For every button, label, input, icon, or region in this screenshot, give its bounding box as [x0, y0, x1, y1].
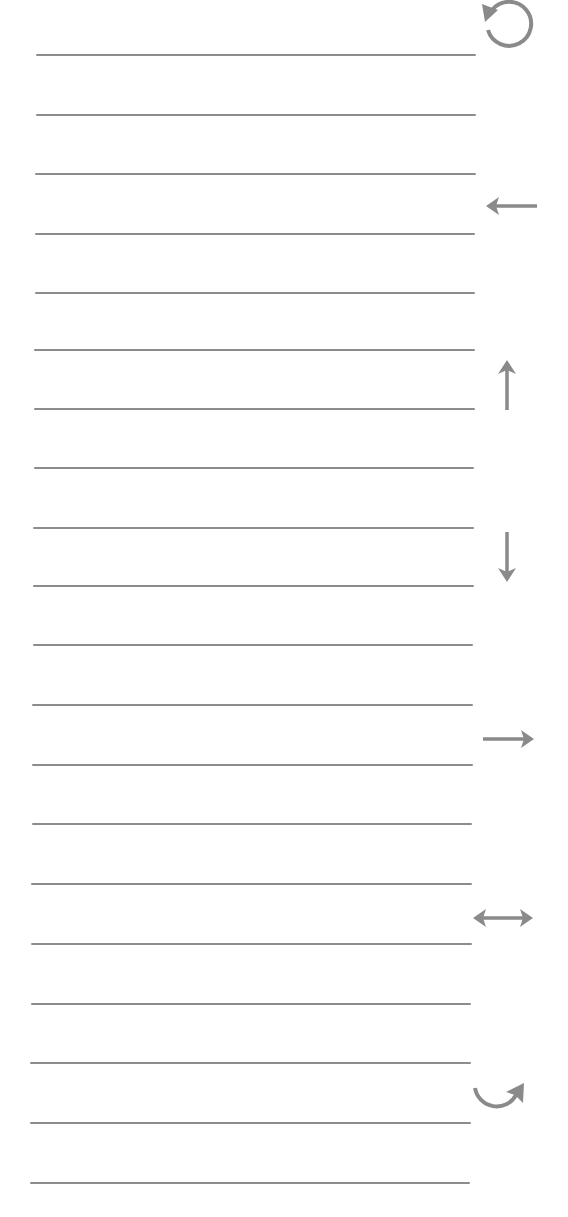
arrow-right-icon: [480, 727, 536, 751]
arrow-left-icon: [484, 194, 540, 218]
ruled-line: [32, 823, 472, 825]
lined-worksheet: [0, 0, 568, 1217]
ruled-line: [30, 1062, 471, 1064]
ruled-line: [31, 1003, 471, 1005]
ruled-line: [32, 704, 473, 706]
arrow-up-icon: [495, 358, 519, 412]
ruled-line: [31, 943, 472, 945]
ruled-line: [34, 349, 475, 351]
ruled-line: [35, 233, 475, 235]
ruled-line: [33, 527, 474, 529]
ruled-line: [36, 114, 476, 116]
arrow-left-right-icon: [471, 906, 535, 930]
ruled-line: [36, 54, 476, 56]
ruled-line: [35, 292, 475, 294]
turn-clockwise-icon: [466, 1075, 530, 1125]
ruled-line: [34, 408, 475, 410]
ruled-line: [34, 467, 474, 469]
ruled-line: [31, 883, 472, 885]
ruled-line: [32, 764, 473, 766]
ruled-line: [35, 173, 476, 175]
rotate-counterclockwise-icon: [478, 0, 538, 52]
ruled-line: [33, 585, 474, 587]
ruled-line: [30, 1122, 471, 1124]
arrow-down-icon: [495, 530, 519, 584]
ruled-line: [30, 1182, 470, 1184]
ruled-line: [33, 644, 473, 646]
